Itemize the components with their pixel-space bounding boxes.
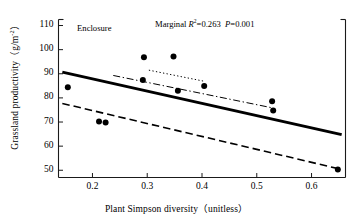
data-point xyxy=(140,77,146,83)
data-point xyxy=(171,53,177,59)
regression-line-marginal-fit xyxy=(62,72,341,134)
data-point xyxy=(103,120,109,126)
y-tick-label-60: 60 xyxy=(28,140,54,150)
y-tick-label-90: 90 xyxy=(28,67,54,77)
y-tick-label-110: 110 xyxy=(28,19,54,29)
y-tick-label-70: 70 xyxy=(28,116,54,126)
x-axis-label: Plant Simpson diversity（unitless） xyxy=(0,201,353,215)
y-tick-label-80: 80 xyxy=(28,91,54,101)
figure-container: Grassland productivity（g/m-2） Plant Simp… xyxy=(0,0,353,221)
x-tick-label-0.5: 0.5 xyxy=(242,181,272,191)
x-tick-label-0.4: 0.4 xyxy=(187,181,217,191)
data-point xyxy=(141,54,147,60)
data-point xyxy=(96,119,102,125)
data-points-group xyxy=(65,53,341,172)
data-point xyxy=(335,167,341,173)
enclosure-label: Enclosure xyxy=(77,23,111,33)
x-tick-label-0.2: 0.2 xyxy=(77,181,107,191)
data-point xyxy=(65,84,71,90)
x-tick-label-0.3: 0.3 xyxy=(132,181,162,191)
x-tick-label-0.6: 0.6 xyxy=(297,181,327,191)
regression-line-dash-dot-fit xyxy=(113,75,273,108)
y-tick-label-100: 100 xyxy=(28,43,54,53)
y-axis-label: Grassland productivity（g/m-2） xyxy=(7,0,21,170)
data-point xyxy=(201,83,207,89)
data-point xyxy=(270,107,276,113)
axes-group xyxy=(59,20,346,178)
regression-line-dotted-fit xyxy=(149,70,204,81)
stats-annotation: Marginal R2=0.263 P=0.001 xyxy=(155,18,254,29)
regression-line-dashed-fit xyxy=(62,103,340,169)
y-tick-label-50: 50 xyxy=(28,164,54,174)
data-point xyxy=(269,98,275,104)
data-point xyxy=(175,88,181,94)
